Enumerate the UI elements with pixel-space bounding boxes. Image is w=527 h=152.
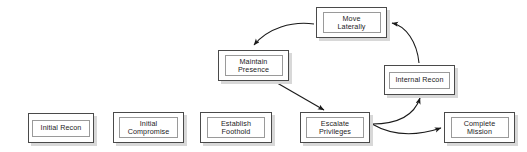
node-internal-recon[interactable]: Internal Recon: [384, 65, 455, 95]
node-label-initial-recon: Initial Recon: [41, 124, 82, 132]
node-initial-recon[interactable]: Initial Recon: [28, 113, 94, 143]
node-inner-internal-recon: Internal Recon: [389, 72, 450, 89]
node-label-internal-recon: Internal Recon: [395, 76, 443, 84]
node-label-escalate-privileges: Escalate Privileges: [319, 120, 351, 136]
node-inner-maintain-presence: Maintain Presence: [225, 55, 283, 76]
edge-internal-recon-to-move-laterally: [392, 23, 419, 63]
node-label-move-laterally: Move Laterally: [337, 15, 365, 31]
edge-escalate-privileges-to-internal-recon: [372, 98, 420, 124]
node-complete-mission[interactable]: Complete Mission: [444, 112, 515, 143]
node-inner-initial-compromise: Initial Compromise: [119, 117, 178, 138]
node-move-laterally[interactable]: Move Laterally: [316, 7, 387, 38]
node-maintain-presence[interactable]: Maintain Presence: [218, 50, 289, 81]
node-label-establish-foothold: Establish Foothold: [221, 120, 251, 136]
node-label-maintain-presence: Maintain Presence: [238, 58, 269, 74]
node-escalate-privileges[interactable]: Escalate Privileges: [300, 112, 370, 143]
node-label-complete-mission: Complete Mission: [464, 120, 496, 136]
edge-maintain-presence-to-escalate-privileges: [272, 80, 324, 110]
node-inner-establish-foothold: Establish Foothold: [207, 117, 265, 138]
node-inner-complete-mission: Complete Mission: [451, 117, 509, 138]
edge-move-laterally-to-maintain-presence: [254, 23, 314, 45]
node-inner-escalate-privileges: Escalate Privileges: [306, 117, 364, 138]
node-establish-foothold[interactable]: Establish Foothold: [200, 112, 272, 143]
node-inner-move-laterally: Move Laterally: [323, 12, 381, 33]
node-label-initial-compromise: Initial Compromise: [128, 120, 170, 136]
edge-escalate-privileges-to-complete-mission: [372, 124, 441, 134]
node-inner-initial-recon: Initial Recon: [32, 120, 90, 137]
node-initial-compromise[interactable]: Initial Compromise: [113, 112, 184, 143]
attack-chain-diagram: Initial ReconInitial CompromiseEstablish…: [0, 0, 527, 152]
